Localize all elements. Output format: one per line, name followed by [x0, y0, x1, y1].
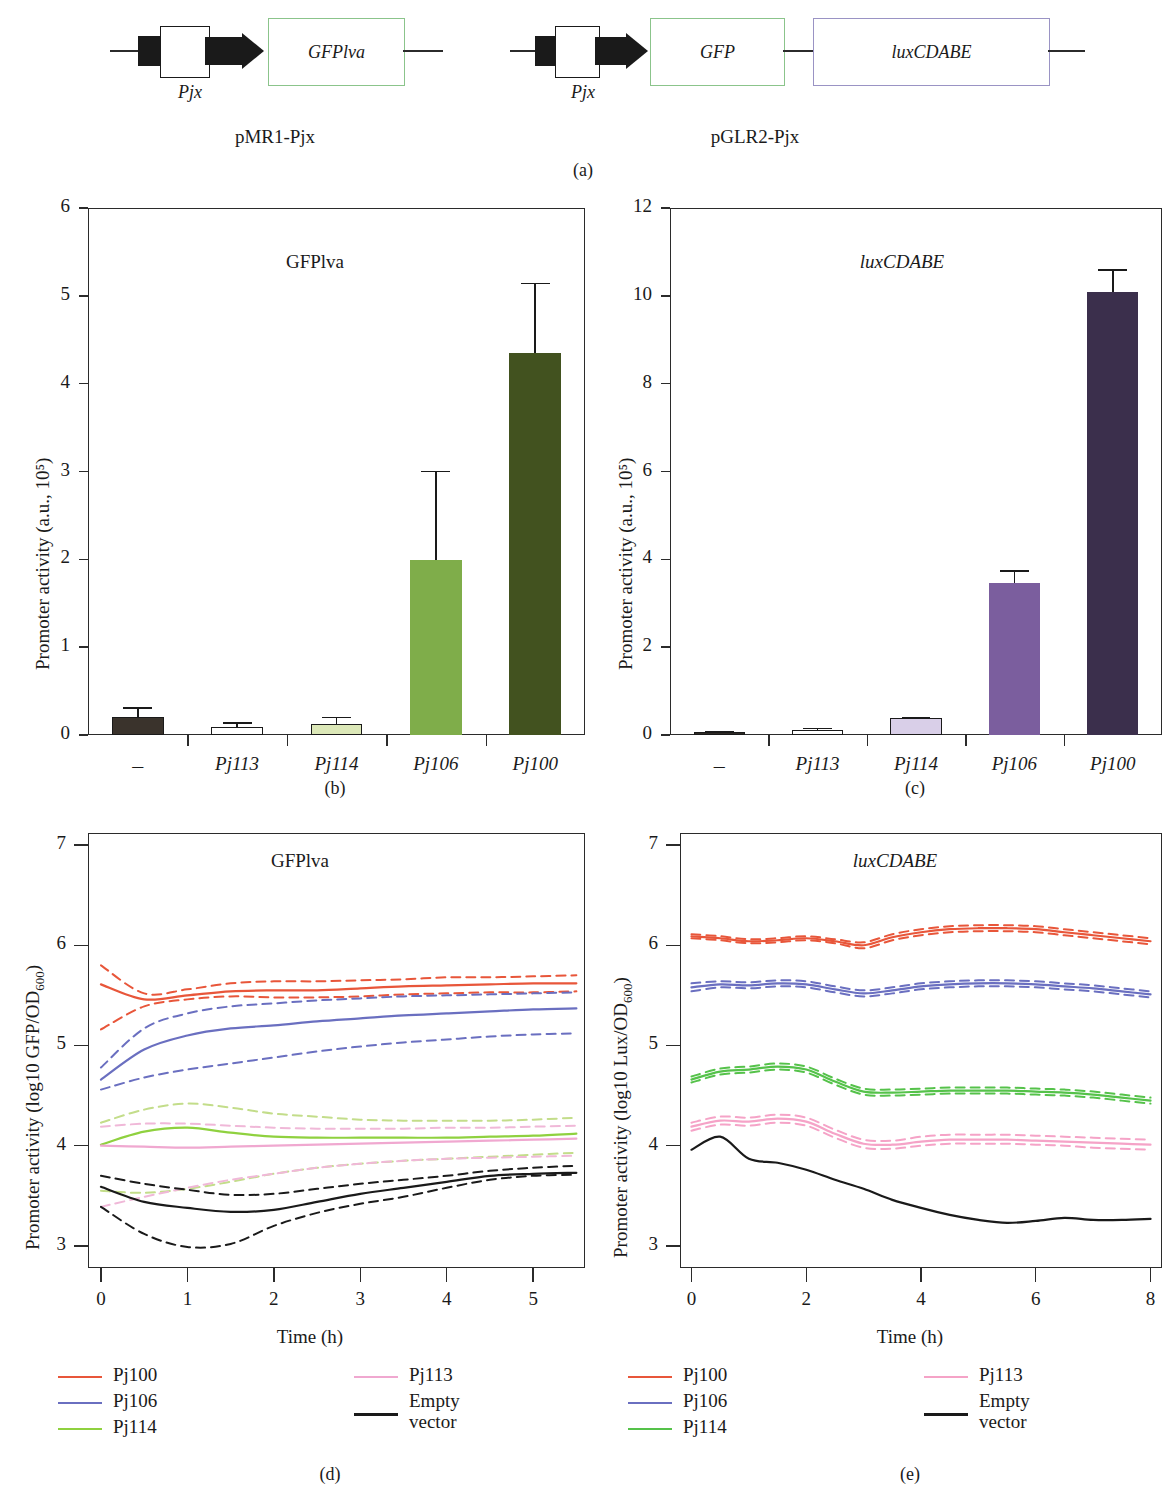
y-tick-mark — [661, 295, 670, 296]
series-line — [101, 1156, 576, 1207]
legend-d-item[interactable]: Pj114 — [58, 1417, 157, 1438]
y-tick-label: 5 — [628, 1032, 658, 1054]
legend-d-item[interactable]: Pj113 — [354, 1365, 453, 1386]
legend-d-item[interactable]: Pj100 — [58, 1365, 157, 1386]
error-bar-whisker — [1014, 570, 1016, 583]
x-category-label: Pj113 — [192, 753, 282, 775]
x-tick-mark — [532, 1268, 533, 1282]
x-tick-label: 4 — [412, 1288, 482, 1310]
series-line — [101, 1166, 576, 1195]
legend-color-swatch — [924, 1413, 968, 1416]
y-tick-mark — [661, 383, 670, 384]
y-tick-label: 7 — [36, 832, 66, 854]
bar — [989, 583, 1040, 735]
y-tick-label: 7 — [628, 832, 658, 854]
y-tick-label: 10 — [622, 283, 652, 305]
series-line — [691, 1137, 1150, 1223]
panel-caption-a: (a) — [553, 160, 613, 181]
y-tick-label: 8 — [622, 371, 652, 393]
legend-e-item[interactable]: Pj113 — [924, 1365, 1023, 1386]
y-tick-mark — [666, 844, 680, 845]
x-tick-label: 5 — [498, 1288, 568, 1310]
x-category-label: Pj114 — [871, 753, 961, 775]
bar — [1087, 292, 1138, 735]
promoter-core-box — [160, 26, 210, 78]
y-tick-mark — [666, 945, 680, 946]
legend-e-item[interactable]: Pj100 — [628, 1365, 727, 1386]
legend-d: Pj100Pj106Pj114 Pj113Emptyvector — [58, 1365, 578, 1460]
legend-color-swatch — [924, 1376, 968, 1378]
y-tick-mark — [74, 1045, 88, 1046]
promoter-m35-box — [535, 36, 557, 66]
x-tick-mark — [1064, 735, 1065, 746]
y-tick-mark — [79, 734, 88, 735]
legend-item-label: Emptyvector — [409, 1391, 460, 1432]
legend-e-item[interactable]: Emptyvector — [924, 1391, 1030, 1432]
error-bar-whisker — [435, 471, 437, 561]
legend-d-item[interactable]: Emptyvector — [354, 1391, 460, 1432]
legend-color-swatch — [628, 1402, 672, 1404]
y-tick-label: 3 — [36, 1233, 66, 1255]
promoter-label-pjx: Pjx — [553, 82, 613, 103]
dna-backbone-right — [1048, 50, 1085, 52]
legend-color-swatch — [354, 1413, 398, 1416]
gene-box-luxcdabe: luxCDABE — [813, 18, 1050, 86]
panel-e-chart: Promoter activity (log10 Lux/OD600) luxC… — [580, 820, 1167, 1489]
y-tick-label: 4 — [628, 1133, 658, 1155]
panel-b-chart: Promoter activity (a.u., 10⁵) GFPlva 012… — [0, 190, 590, 810]
legend-color-swatch — [58, 1402, 102, 1404]
plot-title-b: GFPlva — [215, 251, 415, 273]
plasmid-name-pglr2: pGLR2-Pjx — [465, 126, 1045, 148]
x-tick-mark — [446, 1268, 447, 1282]
y-tick-label: 3 — [40, 459, 70, 481]
x-tick-label: 2 — [239, 1288, 309, 1310]
x-tick-label: 3 — [325, 1288, 395, 1310]
x-category-label: Pj106 — [969, 753, 1059, 775]
error-bar-cap — [705, 731, 734, 733]
y-tick-label: 6 — [36, 932, 66, 954]
legend-color-swatch — [628, 1428, 672, 1430]
bar — [410, 560, 462, 735]
bar — [890, 718, 941, 735]
y-tick-label: 4 — [36, 1133, 66, 1155]
y-tick-label: 4 — [40, 371, 70, 393]
y-tick-mark — [661, 559, 670, 560]
y-tick-mark — [661, 207, 670, 208]
y-tick-label: 2 — [40, 546, 70, 568]
x-category-label: Pj114 — [292, 753, 382, 775]
x-category-label: – — [674, 753, 764, 779]
x-tick-mark — [1035, 1268, 1036, 1282]
y-tick-label: 2 — [622, 634, 652, 656]
legend-item-label: Pj114 — [113, 1417, 157, 1438]
x-tick-mark — [100, 1268, 101, 1282]
series-line — [691, 1115, 1150, 1141]
error-bar-cap — [223, 722, 252, 724]
bar — [311, 724, 363, 735]
panel-c-chart: Promoter activity (a.u., 10⁵) luxCDABE 0… — [580, 190, 1167, 810]
x-tick-label: 8 — [1116, 1288, 1167, 1310]
gene-label-gfp: GFP — [700, 42, 735, 63]
x-category-label: – — [93, 753, 183, 779]
legend-item-label: Pj100 — [113, 1365, 157, 1386]
x-axis-label-d: Time (h) — [240, 1326, 380, 1348]
dna-linker — [783, 50, 814, 52]
x-tick-label: 4 — [886, 1288, 956, 1310]
y-tick-mark — [661, 734, 670, 735]
y-tick-mark — [74, 1145, 88, 1146]
error-bar-cap — [322, 717, 351, 719]
legend-color-swatch — [58, 1428, 102, 1430]
line-plot-e — [680, 833, 1162, 1268]
y-tick-mark — [74, 945, 88, 946]
legend-e-item[interactable]: Pj114 — [628, 1417, 727, 1438]
legend-item-label: Pj106 — [113, 1391, 157, 1412]
x-tick-label: 2 — [771, 1288, 841, 1310]
bar — [792, 730, 843, 735]
x-tick-mark — [287, 735, 288, 746]
error-bar-cap — [1000, 570, 1029, 572]
legend-d-item[interactable]: Pj106 — [58, 1391, 157, 1412]
construct-pglr2-pjx: GFP luxCDABE Pjx pGLR2-Pjx — [505, 8, 1085, 158]
x-tick-mark — [187, 735, 188, 746]
legend-e-item[interactable]: Pj106 — [628, 1391, 727, 1412]
plasmid-name-pmr1: pMR1-Pjx — [105, 126, 445, 148]
legend-e: Pj100Pj106Pj114 Pj113Emptyvector — [628, 1365, 1148, 1460]
